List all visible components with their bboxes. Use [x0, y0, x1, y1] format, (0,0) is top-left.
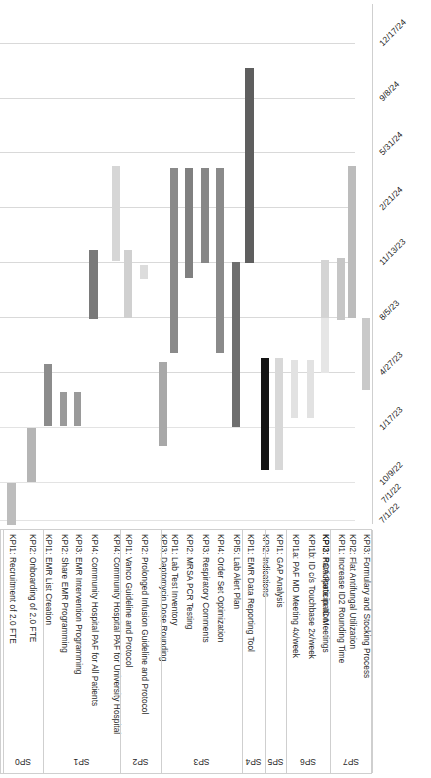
category-label: KPI2: Prolonged Infusion Guideline and P…: [140, 534, 150, 714]
gridline: [0, 372, 355, 373]
group-separator: [372, 530, 373, 773]
gantt-bar[interactable]: [321, 318, 329, 373]
group-label-sp1: SP1: [43, 757, 120, 767]
group-separator: [265, 530, 266, 773]
category-column: KPI1: EMR List Creation: [42, 530, 56, 773]
group-label-sp4: SP4: [242, 757, 265, 767]
gridline: [0, 520, 355, 521]
date-axis-tick: 8/5/23: [377, 298, 401, 322]
category-label: KPI1: EMR Data Reporting Tool: [246, 534, 256, 652]
category-label: KPI1: Lab Test Inventory: [170, 534, 180, 625]
gantt-bar[interactable]: [89, 250, 98, 319]
gantt-bar[interactable]: [170, 168, 178, 353]
category-label: KPI1a: PAF MD Meeting 4x/week: [291, 534, 301, 658]
gridline: [0, 427, 355, 428]
category-label: KPI1: EMR List Creation: [44, 534, 54, 625]
category-column: KPI1a: PAF MD Meeting 4x/week: [289, 530, 302, 773]
gantt-bar[interactable]: [7, 483, 16, 525]
gantt-bar[interactable]: [74, 392, 81, 426]
gantt-bar[interactable]: [185, 168, 193, 278]
category-column: KPI3: Respiratory Comments: [199, 530, 213, 773]
category-column: KPI4: Community Hospital PAF for All Pat…: [87, 530, 102, 773]
category-label: KPI4: Community Hospital PAF for All Pat…: [90, 534, 100, 706]
category-label: KPI2: Onboarding of 2.0 FTE: [28, 534, 38, 642]
date-axis-tick: 11/13/23: [377, 236, 408, 267]
group-separator: [286, 530, 287, 773]
category-column: KPI2: Onboarding of 2.0 FTE: [25, 530, 40, 773]
category-column: KPI2: MRSA PCR Testing: [183, 530, 197, 773]
plot-area: [0, 0, 355, 525]
category-label: KPI2: Flat Antifungal Utilization: [348, 534, 358, 649]
group-label-sp7: SP7: [330, 757, 372, 767]
date-axis-tick: 10/9/22: [377, 459, 405, 487]
category-column: KPI2: Prolonged Infusion Guideline and P…: [138, 530, 152, 773]
gridline: [0, 482, 355, 483]
gantt-bar[interactable]: [27, 428, 36, 482]
date-axis-tick: 5/31/24: [377, 129, 405, 157]
category-label-band: KPI1: Recruitment of 2.0 FTEKPI2: Onboar…: [0, 529, 372, 774]
gantt-bar[interactable]: [60, 392, 67, 426]
category-label: KPI2: Share EMR Programming: [60, 534, 70, 653]
category-label: KPI1: Vanco Guideline and Protocol: [124, 534, 134, 667]
group-label-sp2: SP2: [120, 757, 161, 767]
category-label: KPI1: Recruitment of 2.0 FTE: [8, 534, 18, 644]
date-axis-tick: 12/17/24: [377, 17, 408, 48]
date-axis-tick: 7/1/22: [377, 501, 401, 525]
category-label: KPI1: GAP Analysis: [275, 534, 285, 608]
gantt-bar[interactable]: [321, 260, 329, 318]
gantt-bar[interactable]: [261, 358, 269, 470]
group-separator: [3, 530, 4, 773]
category-column: KPI1b: ID c/s Touchbase 2x/week: [305, 530, 318, 773]
gantt-bar[interactable]: [216, 168, 224, 353]
category-column: KPI1: Lab Test Inventory: [168, 530, 182, 773]
gantt-bar[interactable]: [44, 364, 52, 426]
group-separator: [161, 530, 162, 773]
group-separator: [242, 530, 243, 773]
category-label: KPI4: Order Set Optimization: [216, 534, 226, 642]
group-label-sp3: SP3: [161, 757, 242, 767]
gridline: [0, 43, 355, 44]
category-column: KPI1: GAP Analysis: [273, 530, 287, 773]
gantt-bar[interactable]: [245, 68, 254, 263]
category-label: KPI5: Lab Alert Plan: [232, 534, 242, 609]
category-label: KPI3: Respiratory Comments: [201, 534, 211, 643]
gantt-bar[interactable]: [232, 262, 240, 427]
gantt-bar[interactable]: [112, 166, 120, 261]
date-axis: 12/17/249/8/245/31/242/21/2411/13/238/5/…: [355, 0, 431, 525]
gantt-bar[interactable]: [159, 362, 167, 446]
category-label: KPI2: MRSA PCR Testing: [185, 534, 195, 629]
gantt-bar[interactable]: [275, 358, 283, 470]
category-column: KPI2: Indications: [259, 530, 273, 773]
gantt-bar[interactable]: [337, 258, 345, 320]
group-label-sp0: SP0: [3, 757, 43, 767]
gantt-bar[interactable]: [124, 250, 132, 318]
gantt-chart: 12/17/249/8/245/31/242/21/2411/13/238/5/…: [0, 0, 431, 778]
group-label-sp6: SP6: [286, 757, 330, 767]
date-axis-tick: 1/17/23: [377, 404, 405, 432]
gridline: [0, 152, 355, 153]
gantt-bar[interactable]: [201, 168, 209, 263]
date-axis-tick: 9/8/24: [377, 79, 401, 103]
category-column: KPI1: Vanco Guideline and Protocol: [122, 530, 136, 773]
category-label: KPI3: Formulary and Stocking Process: [362, 534, 372, 678]
category-label: KPI1b: ID c/s Touchbase 2x/week: [307, 534, 317, 659]
gantt-bar[interactable]: [291, 360, 298, 418]
category-label: KPI2: Indications: [261, 534, 271, 597]
group-label-sp5: SP5: [265, 757, 286, 767]
category-column: KPI2: Flat Antifungal Utilization: [346, 530, 360, 773]
category-column: KPI1: Recruitment of 2.0 FTE: [5, 530, 20, 773]
gridline: [0, 98, 355, 99]
category-column: KPI2: Share EMR Programming: [58, 530, 71, 773]
category-column: KPI1: EMR Data Reporting Tool: [243, 530, 258, 773]
gantt-bar[interactable]: [307, 360, 314, 418]
date-axis-tick: 4/27/23: [377, 349, 405, 377]
group-separator: [120, 530, 121, 773]
group-separator: [330, 530, 331, 773]
category-column: KPI4: Order Set Optimization: [214, 530, 228, 773]
date-axis-tick: 2/21/24: [377, 184, 405, 212]
category-column: KPI3: EMR Intervention Programming: [72, 530, 85, 773]
gantt-bar[interactable]: [140, 265, 148, 279]
group-separator: [43, 530, 44, 773]
category-label: KPI3: EMR Intervention Programming: [74, 534, 84, 675]
